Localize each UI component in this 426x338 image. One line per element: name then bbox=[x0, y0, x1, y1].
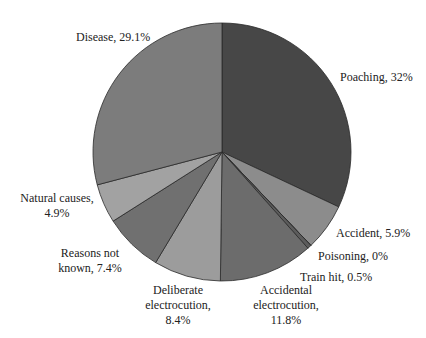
label-line: Reasons not bbox=[50, 246, 130, 261]
label-line: Deliberate bbox=[128, 283, 228, 298]
label-deliberate-electrocution: Deliberate electrocution, 8.4% bbox=[128, 283, 228, 328]
label-line: 4.9% bbox=[12, 206, 102, 221]
label-accidental-electrocution: Accidental electrocution, 11.8% bbox=[236, 283, 336, 328]
label-line: Natural causes, bbox=[12, 191, 102, 206]
label-line: 8.4% bbox=[128, 313, 228, 328]
label-line: Accidental bbox=[236, 283, 336, 298]
label-reasons-not-known: Reasons not known, 7.4% bbox=[50, 246, 130, 276]
label-poisoning: Poisoning, 0% bbox=[318, 249, 388, 264]
label-disease: Disease, 29.1% bbox=[76, 30, 150, 45]
label-line: 11.8% bbox=[236, 313, 336, 328]
label-line: known, 7.4% bbox=[50, 261, 130, 276]
label-accident: Accident, 5.9% bbox=[336, 226, 410, 241]
label-line: electrocution, bbox=[128, 298, 228, 313]
label-natural-causes: Natural causes, 4.9% bbox=[12, 191, 102, 221]
label-poaching: Poaching, 32% bbox=[340, 70, 413, 85]
label-line: electrocution, bbox=[236, 298, 336, 313]
